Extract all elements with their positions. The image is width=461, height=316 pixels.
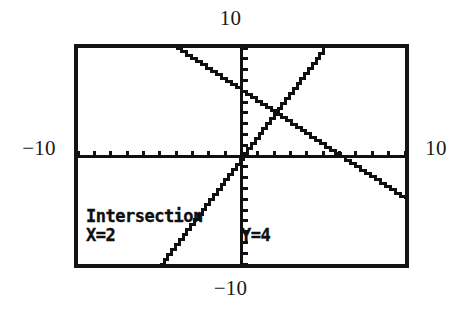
calculator-screenshot: 10 −10 10 −10 Intersection X=2 Y=4 [0, 0, 461, 316]
intersection-y-value: Y=4 [241, 227, 270, 244]
window-label-ymax: 10 [0, 8, 461, 29]
window-label-xmin: −10 [10, 138, 68, 159]
series-descending-line [176, 48, 405, 199]
intersection-x-value: X=2 [86, 227, 115, 244]
intersection-label: Intersection [86, 208, 203, 225]
window-label-xmax: 10 [414, 138, 458, 159]
window-label-ymin: −10 [0, 278, 461, 299]
calculator-screen: Intersection X=2 Y=4 [74, 44, 409, 268]
